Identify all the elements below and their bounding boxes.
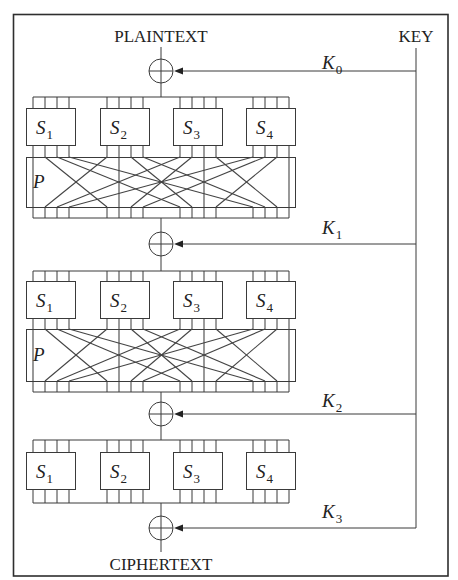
xor-key-mix-1: K1 xyxy=(149,217,416,256)
sbox-3: S3 xyxy=(174,282,223,319)
permutation-box: P xyxy=(27,157,296,208)
sbox-1: S1 xyxy=(27,109,76,146)
permutation-box: P xyxy=(27,329,296,382)
sbox-2: S2 xyxy=(101,453,150,490)
arrow-left-icon xyxy=(174,68,183,75)
sbox-2: S2 xyxy=(101,109,150,146)
sbox-3: S3 xyxy=(174,453,223,490)
sbox-1: S1 xyxy=(27,282,76,319)
sbox-2: S2 xyxy=(101,282,150,319)
spn-layers: K0S1S2S3S4PK1S1S2S3S4PK2S1S2S3S4K3 xyxy=(27,47,417,552)
round-key-label-3: K3 xyxy=(321,501,342,526)
sbox-4: S4 xyxy=(247,109,296,146)
sbox-4: S4 xyxy=(247,282,296,319)
xor-key-mix-0: K0 xyxy=(149,52,416,83)
arrow-left-icon xyxy=(174,411,183,418)
spn-diagram: PLAINTEXT KEY CIPHERTEXT K0S1S2S3S4PK1S1… xyxy=(0,0,458,580)
arrow-left-icon xyxy=(174,241,183,248)
key-label: KEY xyxy=(399,27,434,46)
xor-key-mix-3: K3 xyxy=(149,501,416,540)
plaintext-label: PLAINTEXT xyxy=(114,27,208,46)
xor-key-mix-2: K2 xyxy=(149,390,416,426)
figure-frame xyxy=(14,15,449,577)
sbox-4: S4 xyxy=(247,453,296,490)
round-key-label-2: K2 xyxy=(321,390,342,415)
arrow-left-icon xyxy=(174,525,183,532)
permutation-label: P xyxy=(32,344,45,365)
sbox-1: S1 xyxy=(27,453,76,490)
round-key-label-0: K0 xyxy=(321,52,342,77)
permutation-label: P xyxy=(32,171,45,192)
ciphertext-label: CIPHERTEXT xyxy=(110,555,213,574)
round-key-label-1: K1 xyxy=(321,217,342,242)
sbox-3: S3 xyxy=(174,109,223,146)
